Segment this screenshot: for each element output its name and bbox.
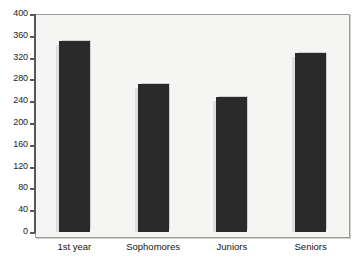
y-axis-tick-mark [30, 79, 35, 81]
y-axis-tick-label: 320 [13, 52, 28, 62]
y-axis-tick-label: 40 [18, 204, 28, 214]
x-axis-tick-label: Seniors [271, 241, 350, 252]
y-axis-tick-label: 0 [23, 226, 28, 236]
x-axis-tick-label: Sophomores [114, 241, 193, 252]
x-axis-tick-label: 1st year [35, 241, 114, 252]
y-axis-tick-label: 280 [13, 73, 28, 83]
bar-rect[interactable] [295, 53, 326, 232]
y-axis-tick-label: 240 [13, 95, 28, 105]
y-axis-tick-mark [30, 167, 35, 169]
y-axis-tick-label: 160 [13, 139, 28, 149]
page-title [0, 0, 360, 2]
y-axis-tick-mark [30, 145, 35, 147]
y-axis-tick-mark [30, 232, 35, 234]
bar-rect[interactable] [138, 84, 169, 232]
bar-2[interactable] [138, 84, 169, 232]
y-axis-tick-mark [30, 14, 35, 16]
y-axis-tick-label: 80 [18, 182, 28, 192]
bar-4[interactable] [295, 53, 326, 232]
y-axis-tick-label: 120 [13, 161, 28, 171]
y-axis-tick-mark [30, 210, 35, 212]
bar-3[interactable] [216, 97, 247, 232]
y-axis-tick-mark [30, 188, 35, 190]
x-axis-tick-label: Juniors [193, 241, 272, 252]
y-axis-tick-label: 400 [13, 8, 28, 18]
y-axis-tick-label: 200 [13, 117, 28, 127]
y-axis-tick-label: 360 [13, 30, 28, 40]
y-axis-tick-mark [30, 123, 35, 125]
y-axis-tick-mark [30, 36, 35, 38]
bar-1[interactable] [59, 41, 90, 232]
y-axis-tick-mark [30, 58, 35, 60]
bar-chart-figure: 04080120160200240280320360400 1st yearSo… [0, 0, 360, 258]
bar-rect[interactable] [59, 41, 90, 232]
y-axis-tick-mark [30, 101, 35, 103]
bar-rect[interactable] [216, 97, 247, 232]
